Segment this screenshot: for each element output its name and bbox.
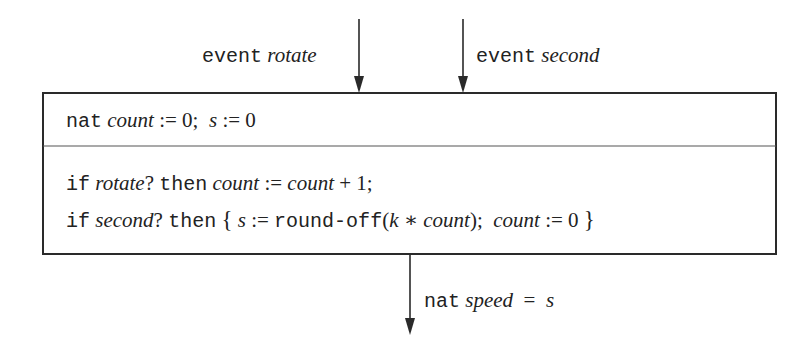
then-keyword: then (159, 173, 207, 196)
if-keyword: if (66, 210, 90, 233)
output-name: speed (465, 288, 513, 312)
round-off-function: round-off (274, 210, 382, 233)
input-arrow-rotate (354, 19, 364, 93)
if-keyword: if (66, 173, 90, 196)
body-line-1: if rotate? then count := count + 1; (66, 173, 373, 195)
type-keyword: nat (66, 110, 102, 133)
input-label-rotate: event rotate (202, 45, 317, 67)
cond-rotate: rotate (95, 171, 144, 195)
event-name: rotate (267, 43, 316, 67)
assign-text: := 0 (217, 108, 256, 132)
type-keyword: nat (424, 290, 460, 313)
declaration-line: nat count := 0; s := 0 (66, 110, 256, 132)
event-keyword: event (476, 45, 536, 68)
cond-second: second (95, 208, 153, 232)
output-label-speed: nat speed = s (424, 290, 554, 312)
then-keyword: then (168, 210, 216, 233)
input-label-second: event second (476, 45, 600, 67)
body-line-2: if second? then { s := round-off(k ∗ cou… (66, 208, 595, 232)
var-count: count (107, 108, 154, 132)
event-name: second (541, 43, 599, 67)
input-arrow-second (458, 19, 468, 93)
var-s: s (209, 108, 217, 132)
assign-text: := 0; (154, 108, 209, 132)
output-arrow-speed (405, 254, 415, 335)
event-keyword: event (202, 45, 262, 68)
